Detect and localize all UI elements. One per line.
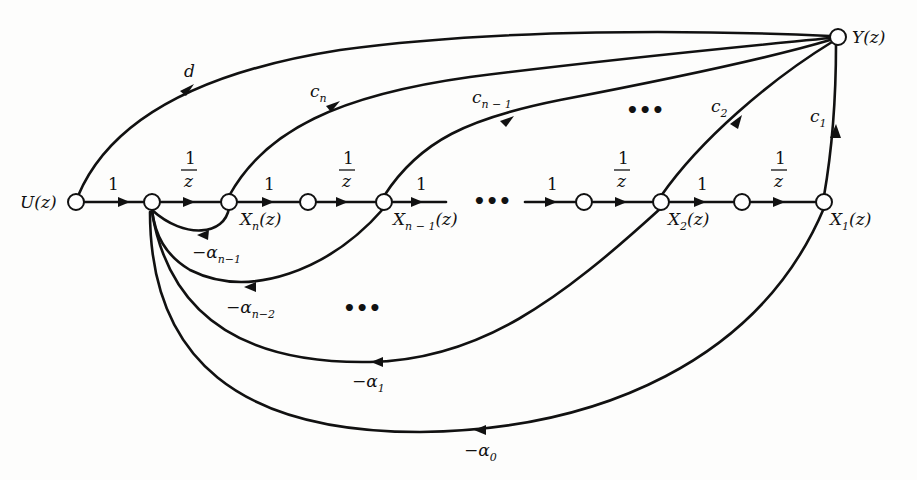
node-intermediate xyxy=(300,194,316,210)
delay-gain: 1 z xyxy=(339,148,355,191)
node-summing xyxy=(144,194,160,210)
gain-cn1: cn − 1 xyxy=(472,87,512,111)
node-x2 xyxy=(653,194,669,210)
gain-c2: c2 xyxy=(711,96,728,120)
gain-one: 1 xyxy=(547,174,558,194)
delay-gain: 1 z xyxy=(181,148,197,191)
svg-text:1: 1 xyxy=(618,148,629,168)
svg-text:z: z xyxy=(183,171,194,191)
svg-text:z: z xyxy=(773,171,784,191)
gain-alpha-n2: −αn−2 xyxy=(226,297,275,321)
gain-alpha-n1: −αn−1 xyxy=(192,242,241,266)
gain-cn: cn xyxy=(310,81,327,105)
label-x1: X1(z) xyxy=(828,209,871,233)
gain-d: d xyxy=(184,61,195,81)
svg-text:1: 1 xyxy=(185,148,196,168)
feedback-branches xyxy=(150,208,824,435)
gain-one: 1 xyxy=(697,174,708,194)
gain-one: 1 xyxy=(264,174,275,194)
node-xn xyxy=(221,194,237,210)
node-intermediate xyxy=(576,194,592,210)
svg-text:z: z xyxy=(341,171,352,191)
node-x1 xyxy=(816,194,832,210)
svg-text:1: 1 xyxy=(343,148,354,168)
ellipsis-feedback: ••• xyxy=(343,296,381,320)
svg-text:z: z xyxy=(616,171,627,191)
diagram-canvas: U(z) Y(z) Xn(z) Xn − 1(z) X2(z) X1(z) 1 … xyxy=(0,0,917,480)
label-xn1: Xn − 1(z) xyxy=(391,209,458,233)
label-xn: Xn(z) xyxy=(238,209,281,233)
ellipsis-forward: ••• xyxy=(473,189,511,213)
node-xn1 xyxy=(376,194,392,210)
svg-text:1: 1 xyxy=(775,148,786,168)
ellipsis-outputs: ••• xyxy=(626,98,664,122)
gain-one: 1 xyxy=(416,174,427,194)
gain-one: 1 xyxy=(108,174,119,194)
delay-gain: 1 z xyxy=(614,148,630,191)
gain-c1: c1 xyxy=(810,106,827,130)
node-intermediate xyxy=(734,194,750,210)
node-output xyxy=(830,29,846,45)
gain-alpha-0: −α0 xyxy=(464,440,497,464)
label-output: Y(z) xyxy=(852,27,885,47)
label-input: U(z) xyxy=(20,192,57,212)
node-input xyxy=(68,194,84,210)
delay-gain: 1 z xyxy=(771,148,787,191)
gain-alpha-1: −α1 xyxy=(352,371,385,395)
signal-flow-graph: U(z) Y(z) Xn(z) Xn − 1(z) X2(z) X1(z) 1 … xyxy=(0,0,917,480)
label-x2: X2(z) xyxy=(666,209,709,233)
